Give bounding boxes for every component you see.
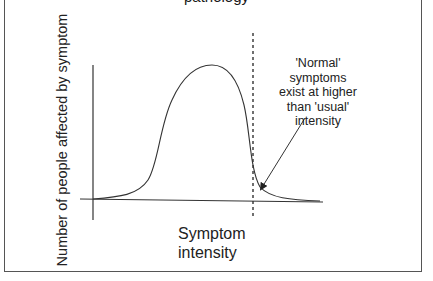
x-axis-label-line2: intensity — [178, 243, 246, 262]
annotation-line: than 'usual' — [268, 100, 368, 115]
annotation-line: 'Normal' — [268, 56, 368, 71]
annotation-arrow — [261, 118, 305, 189]
annotation-line: exist at higher — [268, 85, 368, 100]
annotation-text: 'Normal' symptoms exist at higher than '… — [268, 56, 368, 129]
annotation-line: symptoms — [268, 71, 368, 86]
y-axis-label: Number of people affected by symptom — [54, 14, 70, 267]
x-axis-label: Symptom intensity — [178, 224, 246, 262]
x-axis — [80, 199, 323, 202]
x-axis-label-line1: Symptom — [178, 224, 246, 243]
annotation-line: intensity — [268, 114, 368, 129]
